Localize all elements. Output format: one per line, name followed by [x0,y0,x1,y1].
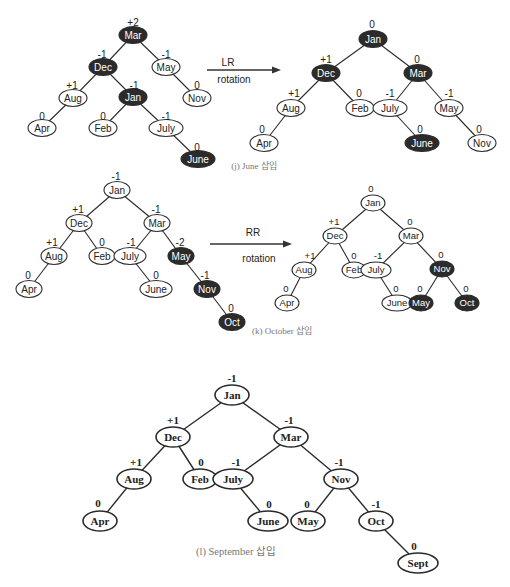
node-label: Feb [191,473,209,485]
node-label: Dec [327,230,344,241]
balance-factor: 0 [304,498,310,510]
tree-node-aug: Aug+1 [277,88,305,117]
node-label: Mar [403,230,419,241]
balance-factor: 0 [414,54,420,65]
tree-node-may: May-1 [152,49,180,76]
node-label: Apr [256,138,272,149]
node-label: July [121,251,139,262]
node-label: Apr [34,123,50,134]
node-label: Mar [281,431,302,443]
node-label: Feb [93,251,111,262]
tree-node-dec: Dec+1 [312,54,340,82]
node-label: Dec [94,62,112,73]
node-label: July [157,123,175,134]
node-label: Aug [64,93,82,104]
balance-factor: 0 [99,237,105,248]
tree-node-aug: Aug+1 [59,80,87,107]
balance-factor: 0 [100,111,106,122]
tree-node-oct: Oct0 [219,303,245,331]
node-label: Feb [351,103,369,114]
balance-factor: 0 [417,124,423,135]
tree-node-aug: Aug+1 [41,237,67,265]
balance-factor: 0 [368,183,373,194]
tree-nodes-j-after: Jan0Dec+1Mar0Aug+1Feb0July-1May-1Apr0Jun… [250,19,496,152]
balance-factor: 0 [228,303,234,314]
balance-factor: -1 [231,456,240,468]
balance-factor: 0 [407,216,412,227]
balance-factor: 0 [39,111,45,122]
tree-node-aug: Aug+1 [117,456,151,489]
node-label: Sept [408,557,429,569]
balance-factor: -1 [227,372,236,384]
tree-node-july: July-1 [373,88,407,117]
nodes-layer: Mar+2Dec-1May-1Aug+1Jan-1Nov0Apr0Feb0Jul… [16,17,496,574]
rr-arrow: RRrotation [210,227,292,264]
tree-node-feb: Feb0 [89,237,115,265]
balance-factor: 0 [95,497,101,509]
tree-node-feb: Feb0 [346,88,374,117]
tree-node-june: June0 [405,124,439,152]
balance-factor: -1 [334,456,343,468]
node-label: Nov [332,473,351,485]
tree-node-dec: Dec-1 [89,49,117,76]
tree-node-july: July-1 [114,237,146,265]
tree-node-sept: Sept0 [398,540,438,573]
node-label: Jan [365,197,380,208]
node-label: Jan [109,185,125,196]
node-label: Dec [317,68,335,79]
node-label: Dec [70,218,88,229]
node-label: May [157,62,176,73]
balance-factor: -1 [386,88,395,99]
tree-node-july: July-1 [213,456,253,489]
tree-node-nov: Nov0 [468,124,496,152]
balance-factor: -1 [201,270,210,281]
tree-node-june: June0 [248,498,288,531]
balance-factor: 0 [194,142,200,153]
node-label: Jan [223,389,240,401]
tree-node-mar: Mar+2 [119,17,147,44]
node-label: Mar [409,68,427,79]
node-label: June [411,138,433,149]
tree-node-dec: Dec+1 [66,204,92,232]
tree-node-feb: Feb0 [89,111,117,137]
balance-factor: -1 [112,171,121,182]
caption-k: (k) October 삽입 [252,325,312,336]
rotation-label: rotation [242,253,275,264]
tree-node-apr: Apr0 [16,270,42,298]
balance-factor: -2 [176,237,185,248]
balance-factor: -1 [130,80,139,91]
rotation-type-label: RR [246,227,260,238]
tree-node-may: May-2 [168,237,194,265]
balance-factor: 0 [25,270,31,281]
rotation-label: rotation [217,74,250,85]
tree-node-oct: Oct-1 [359,498,393,531]
tree-nodes-k-before: Jan-1Dec+1Mar-1Aug+1Feb0July-1May-2Apr0J… [16,171,245,331]
tree-node-nov: Nov-1 [194,270,220,298]
tree-node-jan: Jan-1 [215,372,249,405]
balance-factor: 0 [417,283,422,294]
node-label: Nov [188,93,206,104]
node-label: July [381,103,399,114]
tree-node-nov: Nov-1 [324,456,358,489]
tree-node-apr: Apr0 [250,124,278,152]
balance-factor: +1 [72,204,84,215]
balance-factor: +1 [320,54,332,65]
balance-factor: 0 [463,283,468,294]
balance-factor: 0 [283,283,288,294]
node-label: Aug [124,473,144,485]
tree-nodes-j-before: Mar+2Dec-1May-1Aug+1Jan-1Nov0Apr0Feb0Jul… [28,17,215,168]
balance-factor: 0 [438,249,443,260]
node-label: Mar [148,218,166,229]
captions-layer: (j) June 삽입(k) October 삽입(l) September 삽… [196,160,312,558]
node-label: Oct [460,297,475,308]
node-label: Nov [434,263,451,274]
node-label: Mar [124,30,142,41]
node-label: Apr [21,284,37,295]
balance-factor: 0 [153,270,159,281]
balance-factor: -1 [371,498,380,510]
balance-factor: +1 [46,237,58,248]
tree-node-jan: Jan-1 [104,171,130,199]
balance-factor: 0 [411,540,417,552]
caption-l: (l) September 삽입 [196,545,276,558]
balance-factor: +2 [127,17,139,28]
